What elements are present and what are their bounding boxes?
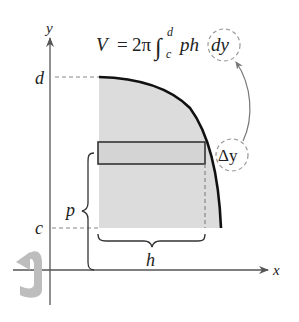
label-h: h xyxy=(146,250,155,270)
formula-lower-limit: c xyxy=(166,47,172,61)
formula-differential: dy xyxy=(211,34,230,55)
shell-method-diagram: y x d c p h V = 2π ∫ d c ph dy Δy xyxy=(0,0,299,322)
formula-coef: 2π xyxy=(132,34,152,55)
formula-integral-sign: ∫ xyxy=(153,34,163,62)
label-p: p xyxy=(64,200,75,220)
representative-rectangle xyxy=(98,142,205,164)
label-d: d xyxy=(35,68,45,88)
delta-y-to-dy-arrow xyxy=(236,62,250,141)
h-brace xyxy=(98,234,205,247)
formula-lhs: V xyxy=(96,34,110,55)
p-brace xyxy=(82,153,94,270)
formula-upper-limit: d xyxy=(167,25,174,39)
rotation-arrow-icon xyxy=(16,251,42,298)
x-axis-label: x xyxy=(272,262,280,278)
label-delta-y: Δy xyxy=(218,146,238,165)
volume-formula: V = 2π ∫ d c ph dy xyxy=(96,25,230,62)
formula-equals: = xyxy=(117,34,128,55)
formula-integrand: ph xyxy=(178,34,199,55)
label-c: c xyxy=(35,218,43,238)
y-axis-label: y xyxy=(44,20,53,36)
